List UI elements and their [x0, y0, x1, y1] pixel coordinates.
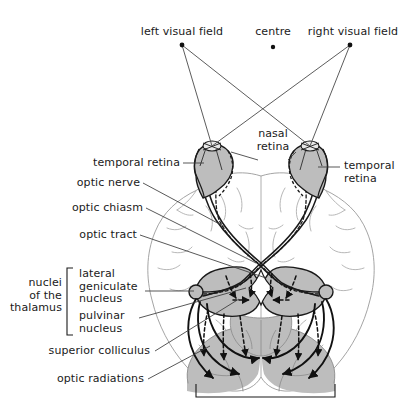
right-lateral-geniculate-nucleus — [319, 285, 333, 299]
label-pulvinar-nucleus: pulvinar nucleus — [79, 310, 155, 335]
thalamus-label-bracket — [67, 268, 73, 335]
label-optic-radiations: optic radiations — [36, 373, 144, 386]
label-nasal-retina: nasal retina — [240, 128, 306, 153]
label-left-visual-field: left visual field — [136, 26, 228, 39]
label-optic-tract: optic tract — [62, 229, 137, 242]
label-temporal-retina-left: temporal retina — [83, 157, 180, 170]
right-field-point-dot — [348, 43, 353, 48]
label-right-visual-field: right visual field — [303, 26, 403, 39]
label-optic-nerve: optic nerve — [60, 177, 140, 190]
label-superior-colliculus: superior colliculus — [25, 345, 150, 358]
label-optic-chiasm: optic chiasm — [53, 202, 143, 215]
left-eye — [194, 141, 233, 198]
visual-pathway-diagram: left visual field centre right visual fi… — [0, 0, 416, 407]
label-lateral-geniculate-nucleus: lateral geniculate nucleus — [79, 268, 155, 306]
label-temporal-retina-right: temporal retina — [344, 160, 414, 185]
label-centre: centre — [247, 26, 299, 39]
left-lateral-geniculate-nucleus — [189, 285, 203, 299]
left-field-point-dot — [180, 43, 185, 48]
label-nuclei-of-the-thalamus: nuclei of the thalamus — [8, 277, 62, 315]
centre-fixation-dot — [271, 45, 275, 49]
